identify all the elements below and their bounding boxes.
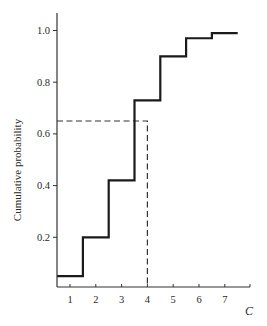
- y-tick-label: 1.0: [37, 25, 50, 36]
- x-tick-label: 4: [145, 294, 151, 305]
- cdf-step-chart: 0.20.40.60.81.0 1234567 Cumulative proba…: [0, 0, 267, 326]
- y-axis-ticks: 0.20.40.60.81.0: [37, 25, 57, 243]
- axes: [57, 13, 250, 287]
- y-tick-label: 0.4: [37, 180, 51, 191]
- x-tick-label: 1: [67, 294, 72, 305]
- x-tick-label: 6: [196, 294, 201, 305]
- x-axis-title: C: [245, 304, 254, 318]
- chart-canvas: 0.20.40.60.81.0 1234567 Cumulative proba…: [0, 0, 267, 326]
- x-tick-label: 7: [222, 294, 227, 305]
- y-tick-label: 0.8: [37, 77, 50, 88]
- x-tick-label: 2: [93, 294, 98, 305]
- y-axis-title: Cumulative probability: [11, 118, 23, 221]
- x-tick-label: 5: [171, 294, 176, 305]
- y-tick-label: 0.2: [37, 232, 50, 243]
- x-tick-label: 3: [119, 294, 124, 305]
- y-tick-label: 0.6: [37, 128, 50, 139]
